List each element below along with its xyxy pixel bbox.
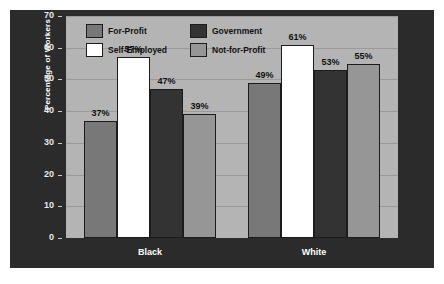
bar [248,83,281,238]
y-axis-title: Percentage of Workers [43,0,52,140]
legend-swatch [190,24,207,38]
x-category-label: White [228,247,400,257]
legend-swatch [86,24,103,38]
bar [183,114,216,238]
bar-value-label: 49% [244,71,285,80]
legend-swatch [86,43,103,57]
y-tick-mark [58,143,62,144]
x-category-label: Black [64,247,236,257]
y-tick-mark [58,48,62,49]
legend-item[interactable]: Government [190,22,262,39]
legend-label: Self-Employed [108,45,167,55]
y-tick-mark [58,111,62,112]
y-tick-mark [58,238,62,239]
legend-label: Not-for-Profit [212,45,265,55]
chart-panel: Percentage of Workers 010203040506070 Bl… [10,10,434,268]
bar [84,121,117,238]
bar-value-label: 55% [343,52,384,61]
gridline [66,16,398,17]
bar [281,45,314,238]
y-tick-label: 0 [18,233,54,242]
y-tick-label: 60 [18,43,54,52]
y-tick-label: 10 [18,201,54,210]
bar-value-label: 37% [80,109,121,118]
y-tick-label: 20 [18,170,54,179]
legend-item[interactable]: Self-Employed [86,41,167,58]
legend-label: For-Profit [108,26,147,36]
chart-figure: Percentage of Workers 010203040506070 Bl… [0,0,444,284]
y-tick-label: 40 [18,106,54,115]
legend-item[interactable]: Not-for-Profit [190,41,265,58]
legend-label: Government [212,26,262,36]
y-tick-label: 50 [18,74,54,83]
bar [347,64,380,238]
y-tick-label: 30 [18,138,54,147]
bar-value-label: 39% [179,102,220,111]
y-tick-mark [58,175,62,176]
y-tick-mark [58,79,62,80]
legend-swatch [190,43,207,57]
legend-item[interactable]: For-Profit [86,22,147,39]
y-tick-mark [58,16,62,17]
y-tick-label: 70 [18,11,54,20]
bar-value-label: 61% [277,33,318,42]
bar [314,70,347,238]
y-tick-mark [58,206,62,207]
bar-value-label: 47% [146,77,187,86]
plot-area: 37%57%47%39%49%61%53%55% For-ProfitGover… [66,16,398,238]
